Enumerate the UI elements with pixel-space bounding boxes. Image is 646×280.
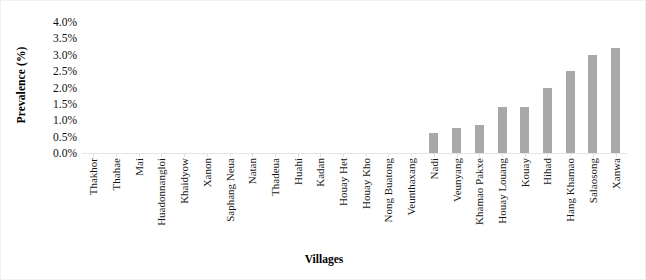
- x-label-slot: Hihad: [536, 158, 559, 246]
- x-label-slot: Saphang Neua: [218, 158, 241, 246]
- x-axis-category-label: Thakhor: [88, 158, 99, 195]
- y-axis-title-label: Prevalence (%): [15, 47, 27, 124]
- bar-slot: [445, 22, 468, 153]
- y-axis-tick-label: 1.0%: [37, 114, 77, 126]
- x-axis-category-label: Veunyang: [451, 158, 462, 202]
- bar-slot: [377, 22, 400, 153]
- x-axis-line: [82, 153, 627, 154]
- x-label-slot: Natan: [241, 158, 264, 246]
- x-axis-category-label: Xanwa: [610, 158, 621, 189]
- x-label-slot: Huadonnangloi: [150, 158, 173, 246]
- y-axis-tick-label: 0.0%: [37, 147, 77, 159]
- bar-slot: [264, 22, 287, 153]
- x-label-slot: Khaidyow: [173, 158, 196, 246]
- bar-slot: [400, 22, 423, 153]
- plot-area: [82, 22, 627, 153]
- bar-slot: [491, 22, 514, 153]
- x-axis-category-label: Houay Kho: [360, 158, 371, 209]
- bar-series: [82, 22, 627, 153]
- x-label-slot: Kouay: [513, 158, 536, 246]
- y-axis-tick-label: 3.0%: [37, 49, 77, 61]
- bar-slot: [286, 22, 309, 153]
- y-axis-tick-labels: 4.0%3.5%3.0%2.5%2.0%1.5%1.0%0.5%0.0%: [37, 16, 77, 160]
- x-axis-category-label: Nong Buatong: [383, 158, 394, 222]
- x-axis-category-label: Nadi: [428, 158, 439, 179]
- y-axis-tick-label: 2.5%: [37, 65, 77, 77]
- bar-slot: [82, 22, 105, 153]
- x-axis-category-label: Thadeua: [269, 158, 280, 196]
- x-label-slot: Nong Buatong: [377, 158, 400, 246]
- x-label-slot: Veunyang: [445, 158, 468, 246]
- y-axis-tick-label: 0.5%: [37, 131, 77, 143]
- x-label-slot: Thakhor: [82, 158, 105, 246]
- bar: [543, 88, 552, 154]
- x-axis-category-label: Salaosong: [587, 158, 598, 203]
- bar-slot: [423, 22, 446, 153]
- x-axis-tick-labels: ThakhorThahaeMaiHuadonnangloiKhaidyowXan…: [82, 158, 627, 246]
- bar-slot: [127, 22, 150, 153]
- bar-slot: [581, 22, 604, 153]
- x-axis-title-label: Villages: [305, 253, 344, 265]
- bar: [588, 55, 597, 153]
- x-label-slot: Huahi: [286, 158, 309, 246]
- x-label-slot: Hang Khamao: [559, 158, 582, 246]
- x-label-slot: Salaosong: [581, 158, 604, 246]
- bar-slot: [105, 22, 128, 153]
- x-label-slot: Nadi: [423, 158, 446, 246]
- x-axis-category-label: Mai: [133, 158, 144, 176]
- x-label-slot: Xanwa: [604, 158, 627, 246]
- x-axis-title: Villages: [1, 253, 646, 265]
- x-label-slot: Khamao Pakxe: [468, 158, 491, 246]
- x-label-slot: Houay Het: [332, 158, 355, 246]
- bar: [429, 133, 438, 153]
- bar-slot: [559, 22, 582, 153]
- bar-slot: [196, 22, 219, 153]
- bar-slot: [309, 22, 332, 153]
- bar-slot: [332, 22, 355, 153]
- x-label-slot: Thadeua: [264, 158, 287, 246]
- bar-slot: [173, 22, 196, 153]
- x-axis-category-label: Natan: [247, 158, 258, 184]
- y-axis-tick-label: 2.0%: [37, 82, 77, 94]
- x-label-slot: Xanon: [196, 158, 219, 246]
- x-label-slot: Kadan: [309, 158, 332, 246]
- x-axis-category-label: Houay Louang: [497, 158, 508, 224]
- x-label-slot: Houay Louang: [491, 158, 514, 246]
- bar-slot: [604, 22, 627, 153]
- x-axis-category-label: Hang Khamao: [565, 158, 576, 222]
- x-axis-category-label: Huahi: [292, 158, 303, 185]
- bar: [498, 107, 507, 153]
- bar-slot: [150, 22, 173, 153]
- x-axis-category-label: Huadonnangloi: [156, 158, 167, 226]
- x-axis-category-label: Saphang Neua: [224, 158, 235, 222]
- bar-slot: [536, 22, 559, 153]
- bar: [520, 107, 529, 153]
- y-axis-tick-label: 3.5%: [37, 32, 77, 44]
- x-axis-category-label: Khaidyow: [179, 158, 190, 204]
- bar-chart-figure: Prevalence (%) 4.0%3.5%3.0%2.5%2.0%1.5%1…: [0, 0, 646, 280]
- bar: [452, 128, 461, 153]
- x-axis-category-label: Houay Het: [338, 158, 349, 206]
- x-axis-category-label: Xanon: [201, 158, 212, 187]
- x-axis-category-label: Hihad: [542, 158, 553, 185]
- y-axis-tick-label: 4.0%: [37, 16, 77, 28]
- bar-slot: [241, 22, 264, 153]
- bar-slot: [468, 22, 491, 153]
- x-label-slot: Thahae: [105, 158, 128, 246]
- bar: [611, 48, 620, 153]
- bar-slot: [513, 22, 536, 153]
- y-axis-tick-label: 1.5%: [37, 98, 77, 110]
- bar: [566, 71, 575, 153]
- bar: [475, 125, 484, 153]
- x-label-slot: Houay Kho: [354, 158, 377, 246]
- bar-slot: [354, 22, 377, 153]
- y-axis-title: Prevalence (%): [13, 15, 29, 155]
- x-axis-category-label: Veunthaxang: [406, 158, 417, 215]
- x-axis-category-label: Thahae: [111, 158, 122, 190]
- x-axis-category-label: Khamao Pakxe: [474, 158, 485, 225]
- x-label-slot: Veunthaxang: [400, 158, 423, 246]
- x-label-slot: Mai: [127, 158, 150, 246]
- x-axis-category-label: Kadan: [315, 158, 326, 187]
- bar-slot: [218, 22, 241, 153]
- x-axis-category-label: Kouay: [519, 158, 530, 187]
